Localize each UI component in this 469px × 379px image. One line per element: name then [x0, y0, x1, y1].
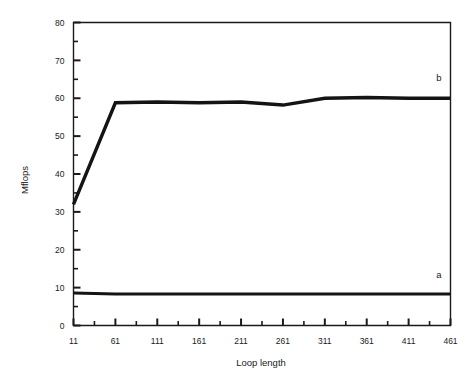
x-tick-label: 211 — [234, 336, 248, 346]
y-axis-title: Mflops — [19, 166, 30, 194]
y-axis-tick-labels: 01020304050607080 — [55, 18, 65, 331]
x-tick-label: 311 — [318, 336, 332, 346]
series-annotation-a: a — [436, 269, 442, 280]
chart-figure: 01020304050607080 1161111161211261311361… — [0, 0, 469, 379]
x-axis-title: Loop length — [236, 357, 286, 368]
x-tick-label: 111 — [151, 336, 164, 346]
x-tick-label: 161 — [192, 336, 206, 346]
x-tick-label: 61 — [111, 336, 121, 346]
x-tick-label: 461 — [443, 336, 457, 346]
series-line-a — [74, 293, 451, 294]
y-tick-label: 0 — [60, 321, 65, 331]
line-chart: 01020304050607080 1161111161211261311361… — [0, 0, 469, 379]
y-tick-label: 50 — [55, 131, 65, 141]
x-tick-label: 411 — [402, 336, 416, 346]
series-annotation-b: b — [436, 72, 441, 83]
y-tick-label: 70 — [55, 56, 65, 66]
y-tick-label: 80 — [55, 18, 65, 28]
y-tick-label: 10 — [55, 283, 65, 293]
y-tick-label: 30 — [55, 207, 65, 217]
y-tick-label: 20 — [55, 245, 65, 255]
x-tick-label: 11 — [69, 336, 78, 346]
x-tick-label: 361 — [360, 336, 374, 346]
y-tick-label: 60 — [55, 93, 65, 103]
y-tick-label: 40 — [55, 169, 65, 179]
x-tick-label: 261 — [276, 336, 290, 346]
figure-background — [0, 0, 469, 379]
